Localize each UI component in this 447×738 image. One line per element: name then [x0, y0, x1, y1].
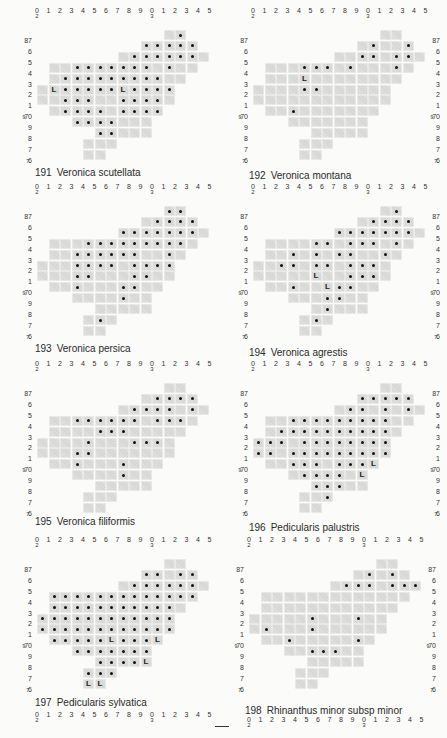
map-caption: 197Pedicularis sylvatica — [35, 697, 147, 708]
literature-record-mark: L — [109, 636, 114, 644]
literature-record-mark: L — [86, 680, 91, 688]
x-axis-label: 4 — [79, 537, 87, 543]
x-axis-label: 8 — [337, 537, 345, 543]
record-dot — [76, 286, 79, 289]
record-dot — [53, 606, 56, 609]
record-dot — [179, 210, 182, 213]
record-dot — [292, 452, 295, 455]
record-dot — [326, 308, 329, 311]
grid-cell — [60, 416, 71, 426]
grid-cell — [380, 85, 391, 95]
grid-cell — [380, 383, 391, 393]
map-number: 193 — [35, 343, 52, 354]
grid-cell — [353, 657, 364, 667]
x-axis-label: 4 — [295, 361, 303, 367]
record-dot — [338, 419, 341, 422]
record-dot — [122, 595, 125, 598]
grid-cell — [265, 106, 276, 116]
record-dot — [191, 584, 194, 587]
record-dot — [76, 121, 79, 124]
record-dot — [99, 617, 102, 620]
record-dot — [292, 286, 295, 289]
record-dot — [99, 132, 102, 135]
record-dot — [76, 253, 79, 256]
x-axis-label: 8 — [125, 537, 133, 543]
y-axis-label: 9 — [426, 477, 440, 485]
x-axis-label: 2 — [272, 361, 280, 367]
x-axis-label: 2 — [383, 537, 391, 543]
grid-cell — [345, 117, 356, 127]
record-dot — [357, 617, 360, 620]
record-dot — [315, 319, 318, 322]
record-dot — [326, 264, 329, 267]
grid-cell — [276, 85, 287, 95]
y-axis-label: 5 — [234, 412, 248, 420]
x-axis-label: 7 — [114, 712, 122, 718]
y-axis-label: 970 — [426, 289, 440, 297]
grid-cell — [276, 416, 287, 426]
record-dot — [156, 99, 159, 102]
record-dot — [395, 210, 398, 213]
y-axis-label: 87 — [426, 37, 440, 45]
grid-cell — [364, 592, 375, 602]
grid-cell — [299, 239, 310, 249]
grid-cell — [95, 139, 106, 149]
y-axis-label: 87 — [234, 37, 248, 45]
x-axis-label: 8 — [337, 717, 345, 723]
x-axis-label: 4 — [291, 537, 299, 543]
x-axis-label: 9 — [137, 537, 145, 543]
x-axis-label: 8 — [125, 8, 133, 14]
x-axis-label: 02 — [249, 8, 257, 19]
record-dot — [292, 264, 295, 267]
record-dot — [87, 650, 90, 653]
species-name: Veronica montana — [271, 170, 352, 181]
record-dot — [133, 661, 136, 664]
grid-cell — [357, 481, 368, 491]
record-dot — [357, 584, 360, 587]
record-dot — [315, 88, 318, 91]
x-axis-label: 4 — [295, 8, 303, 14]
x-axis-label: 3 — [284, 184, 292, 190]
record-dot — [361, 430, 364, 433]
grid-cell — [95, 304, 106, 314]
grid-cell — [391, 30, 402, 40]
y-axis-label: 87 — [234, 390, 248, 398]
grid-cell — [299, 139, 310, 149]
grid-cell — [49, 282, 60, 292]
grid-cell — [299, 250, 310, 260]
map-caption: 193Veronica persica — [35, 343, 131, 354]
y-axis-label: 2 — [426, 91, 440, 99]
y-axis-label: 76 — [234, 333, 248, 341]
grid-cell — [106, 271, 117, 281]
x-axis-label: 6 — [318, 8, 326, 14]
grid-cell — [295, 679, 306, 689]
record-dot — [99, 319, 102, 322]
map-number: 196 — [249, 522, 266, 533]
grid-cell — [187, 416, 198, 426]
x-axis-label: 2 — [171, 361, 179, 367]
record-dot — [384, 419, 387, 422]
record-dot — [361, 231, 364, 234]
grid-cell — [141, 459, 152, 469]
grid-cell — [118, 271, 129, 281]
grid-cell — [152, 448, 163, 458]
y-axis-label: 5 — [234, 59, 248, 67]
x-axis-label: 3 — [68, 537, 76, 543]
x-axis-label: 2 — [56, 712, 64, 718]
grid-cell — [83, 139, 94, 149]
grid-cell — [295, 592, 306, 602]
grid-cell — [141, 416, 152, 426]
grid-cell — [118, 438, 129, 448]
grid-cell — [265, 459, 276, 469]
record-dot — [322, 650, 325, 653]
grid-cell — [95, 438, 106, 448]
record-dot — [145, 99, 148, 102]
x-axis-label: 3 — [395, 537, 403, 543]
grid-cell — [322, 128, 333, 138]
footer-axis-right: 021234567890312345 — [212, 717, 427, 733]
x-axis-label: 7 — [330, 184, 338, 190]
y-axis-label: 9 — [422, 653, 436, 661]
record-dot — [338, 463, 341, 466]
record-dot — [265, 628, 268, 631]
record-dot — [76, 650, 79, 653]
